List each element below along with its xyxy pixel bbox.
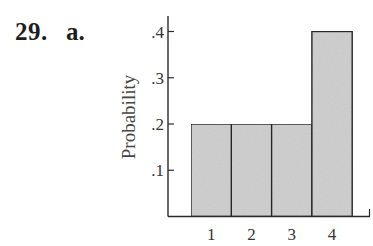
bar-1	[191, 124, 231, 217]
y-tick-label: .1	[151, 161, 164, 180]
x-tick-label: 4	[328, 225, 337, 244]
probability-histogram: .1.2.3.4 1234 Probability	[0, 0, 373, 246]
x-tick-label: 3	[288, 225, 297, 244]
x-tick-label: 1	[207, 225, 216, 244]
y-tick-label: .4	[151, 23, 164, 42]
y-axis-label: Probability	[118, 74, 139, 159]
bar-3	[272, 124, 312, 217]
bar-4	[312, 32, 352, 217]
bar-2	[231, 124, 271, 217]
y-tick-label: .3	[151, 69, 164, 88]
x-tick-label: 2	[247, 225, 256, 244]
bars-group	[191, 32, 352, 217]
x-ticks-group: 1234	[207, 225, 337, 244]
y-tick-label: .2	[151, 115, 164, 134]
y-ticks-group: .1.2.3.4	[151, 23, 174, 181]
